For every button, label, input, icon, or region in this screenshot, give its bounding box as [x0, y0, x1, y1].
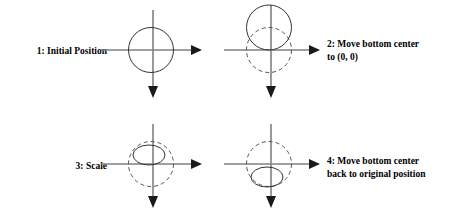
- step-2-figure: [224, 0, 344, 110]
- step-4-solid-ellipse: [251, 167, 283, 187]
- step-4-y-arrowhead: [266, 196, 276, 208]
- step-3-x-arrowhead: [191, 159, 202, 169]
- step-3-panel: [98, 112, 218, 220]
- step-2-y-arrowhead: [266, 86, 276, 98]
- step-4-figure: [224, 112, 344, 220]
- step-1-label: 1: Initial Position: [14, 45, 107, 58]
- step-2-x-arrowhead: [309, 45, 320, 55]
- step-3-solid-ellipse: [133, 145, 165, 165]
- diagram-canvas: 1: Initial Position 2: Move bottom: [0, 0, 461, 221]
- step-2-panel: [224, 0, 344, 110]
- step-1-x-arrowhead: [191, 45, 202, 55]
- step-4-panel: [224, 112, 344, 220]
- step-3-label: 3: Scale: [14, 160, 107, 173]
- step-1-y-arrowhead: [148, 86, 158, 98]
- step-3-y-arrowhead: [148, 196, 158, 208]
- step-2-label: 2: Move bottom center to (0, 0): [327, 38, 459, 64]
- step-1-panel: [98, 0, 218, 110]
- step-4-label: 4: Move bottom center back to original p…: [327, 155, 459, 181]
- step-1-figure: [98, 0, 218, 110]
- step-4-x-arrowhead: [309, 159, 320, 169]
- step-3-figure: [98, 112, 218, 220]
